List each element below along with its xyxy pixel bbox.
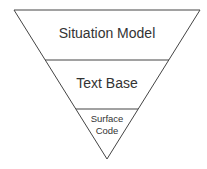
surface-code-line1: Surface — [77, 113, 137, 125]
surface-code-line2: Code — [77, 125, 137, 137]
level-surface-code: Surface Code — [77, 113, 137, 137]
level-situation-model: Situation Model — [40, 25, 174, 41]
level-text-base: Text Base — [60, 75, 154, 91]
